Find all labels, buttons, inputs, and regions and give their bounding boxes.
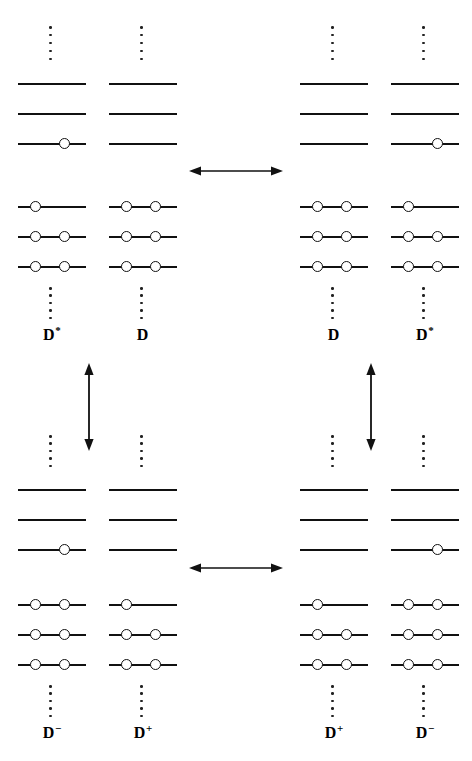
ellipsis-below-occupied: [331, 287, 334, 319]
electron: [341, 659, 352, 670]
electron: [30, 659, 41, 670]
occupied-level: [391, 664, 459, 666]
monomer-label-d-minus: D−: [43, 724, 62, 742]
occupied-level: [18, 664, 86, 666]
electron: [403, 599, 414, 610]
monomer-label-d: D: [328, 326, 340, 344]
quadrant-upper-left: D* D: [18, 20, 198, 360]
ellipsis-above-virtual: [331, 26, 334, 60]
quadrant-lower-left: D− D+: [18, 430, 198, 760]
occupied-level: [109, 266, 177, 268]
virtual-level: [109, 113, 177, 115]
electron: [30, 629, 41, 640]
resonance-arrow-right-vertical: [360, 362, 382, 452]
monomer-label-d-plus: D+: [325, 724, 344, 742]
ellipsis-above-virtual: [140, 435, 143, 467]
ellipsis-above-virtual: [49, 435, 52, 467]
electron: [432, 599, 443, 610]
ellipsis-above-virtual: [422, 435, 425, 467]
occupied-level: [300, 206, 368, 208]
occupied-level: [300, 634, 368, 636]
electron: [59, 231, 70, 242]
electron: [432, 138, 443, 149]
monomer-label-d-plus: D+: [134, 724, 153, 742]
virtual-level: [109, 549, 177, 551]
electron: [121, 261, 132, 272]
label-superscript: +: [146, 722, 152, 734]
virtual-level: [391, 113, 459, 115]
electron: [121, 629, 132, 640]
electron: [403, 629, 414, 640]
monomer-label-d-star: D*: [416, 326, 434, 344]
ellipsis-below-occupied: [140, 287, 143, 319]
electron: [432, 231, 443, 242]
electron: [59, 138, 70, 149]
electron: [30, 599, 41, 610]
occupied-level: [391, 206, 459, 208]
electron: [121, 201, 132, 212]
virtual-level: [18, 113, 86, 115]
ellipsis-below-occupied: [422, 287, 425, 319]
virtual-level: [300, 519, 368, 521]
virtual-level: [109, 83, 177, 85]
label-text: D: [328, 326, 340, 343]
occupied-level: [300, 664, 368, 666]
electron: [30, 201, 41, 212]
electron: [312, 231, 323, 242]
label-superscript: *: [428, 324, 434, 336]
electron: [403, 201, 414, 212]
label-text: D: [416, 724, 428, 741]
occupied-level: [300, 604, 368, 606]
quadrant-lower-right: D+ D−: [300, 430, 472, 760]
electron: [403, 231, 414, 242]
electron: [312, 261, 323, 272]
occupied-level: [391, 634, 459, 636]
electron: [432, 261, 443, 272]
electron: [432, 544, 443, 555]
ellipsis-below-occupied: [331, 685, 334, 717]
electron: [403, 659, 414, 670]
label-superscript: *: [55, 324, 61, 336]
electron: [59, 599, 70, 610]
resonance-arrow-bottom-horizontal: [188, 557, 284, 579]
virtual-level: [109, 519, 177, 521]
electron: [432, 629, 443, 640]
electron: [150, 629, 161, 640]
electron: [121, 231, 132, 242]
occupied-level: [18, 206, 86, 208]
virtual-level: [391, 489, 459, 491]
occupied-level: [109, 604, 177, 606]
electron: [30, 261, 41, 272]
electron: [312, 629, 323, 640]
occupied-level: [18, 236, 86, 238]
label-text: D: [137, 326, 149, 343]
occupied-level: [109, 634, 177, 636]
label-text: D: [416, 326, 428, 343]
virtual-level: [18, 549, 86, 551]
ellipsis-below-occupied: [422, 685, 425, 717]
virtual-level: [300, 549, 368, 551]
electron: [59, 544, 70, 555]
resonance-arrow-left-vertical: [78, 362, 100, 452]
electron: [150, 231, 161, 242]
monomer-label-d-minus: D−: [416, 724, 435, 742]
electron: [312, 599, 323, 610]
occupied-level: [391, 266, 459, 268]
occupied-level: [391, 604, 459, 606]
ellipsis-below-occupied: [49, 287, 52, 319]
virtual-level: [391, 143, 459, 145]
label-text: D: [43, 724, 55, 741]
resonance-arrow-top-horizontal: [188, 160, 284, 182]
ellipsis-above-virtual: [331, 435, 334, 467]
electron: [312, 201, 323, 212]
electron: [341, 201, 352, 212]
ellipsis-below-occupied: [49, 685, 52, 717]
ellipsis-above-virtual: [422, 26, 425, 60]
electron: [150, 659, 161, 670]
electron: [432, 659, 443, 670]
virtual-level: [18, 519, 86, 521]
electron: [30, 231, 41, 242]
virtual-level: [391, 83, 459, 85]
virtual-level: [109, 489, 177, 491]
electron: [341, 629, 352, 640]
